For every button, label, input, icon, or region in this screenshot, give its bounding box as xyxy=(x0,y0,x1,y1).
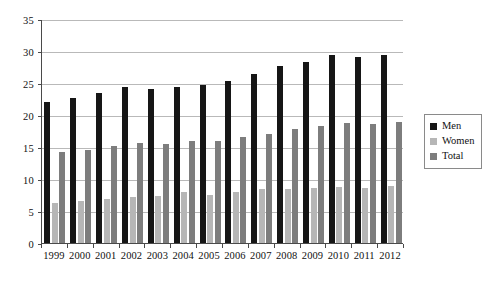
bar-group-2012 xyxy=(381,20,402,243)
y-axis-tick-label: 10 xyxy=(0,175,34,186)
bar-men-2003 xyxy=(148,89,154,243)
bar-men-2011 xyxy=(355,57,361,243)
bar-women-2008 xyxy=(285,189,291,243)
y-axis-tick-label: 30 xyxy=(0,47,34,58)
bar-women-2011 xyxy=(362,188,368,243)
bar-total-2004 xyxy=(189,141,195,243)
y-axis-tick-label: 25 xyxy=(0,79,34,90)
bar-men-2010 xyxy=(329,55,335,243)
bar-group-2010 xyxy=(329,20,350,243)
bar-total-2001 xyxy=(111,146,117,243)
x-tick-mark xyxy=(67,244,68,248)
bar-group-2001 xyxy=(96,20,117,243)
bar-total-2007 xyxy=(266,134,272,243)
x-tick-mark xyxy=(325,244,326,248)
bar-group-2000 xyxy=(70,20,91,243)
bar-men-2007 xyxy=(251,74,257,243)
x-tick-mark xyxy=(93,244,94,248)
x-tick-mark xyxy=(351,244,352,248)
bar-group-2009 xyxy=(303,20,324,243)
legend-label: Men xyxy=(442,121,461,132)
x-tick-mark xyxy=(196,244,197,248)
bar-total-2002 xyxy=(137,143,143,243)
y-axis-tick-label: 35 xyxy=(0,15,34,26)
x-tick-mark xyxy=(248,244,249,248)
bar-men-2002 xyxy=(122,87,128,243)
bar-chart: 05101520253035 1999200020012002200320042… xyxy=(0,0,502,288)
bar-women-2007 xyxy=(259,189,265,243)
legend-label: Total xyxy=(442,151,463,162)
bar-total-1999 xyxy=(59,152,65,243)
legend-swatch-icon xyxy=(430,123,437,130)
bar-group-2002 xyxy=(122,20,143,243)
y-axis-tick-label: 5 xyxy=(0,207,34,218)
bars-layer xyxy=(42,20,403,243)
bar-women-2000 xyxy=(78,201,84,243)
x-tick-mark xyxy=(119,244,120,248)
x-tick-mark xyxy=(274,244,275,248)
x-tick-mark xyxy=(144,244,145,248)
y-axis-tick-label: 20 xyxy=(0,111,34,122)
x-axis-tick-label-2012: 2012 xyxy=(370,250,410,261)
legend-item-men[interactable]: Men xyxy=(430,119,474,134)
bar-women-2005 xyxy=(207,195,213,243)
x-axis-ticks xyxy=(41,244,403,249)
bar-men-2012 xyxy=(381,55,387,243)
bar-group-2006 xyxy=(225,20,246,243)
bar-women-2012 xyxy=(388,186,394,243)
bar-total-2012 xyxy=(396,122,402,243)
bar-group-2004 xyxy=(174,20,195,243)
bar-group-2011 xyxy=(355,20,376,243)
bar-men-2000 xyxy=(70,98,76,243)
bar-group-2005 xyxy=(200,20,221,243)
bar-men-2009 xyxy=(303,62,309,243)
bar-women-2009 xyxy=(311,188,317,243)
bar-group-2007 xyxy=(251,20,272,243)
bar-total-2010 xyxy=(344,123,350,243)
bar-women-2006 xyxy=(233,192,239,243)
x-axis-labels: 1999200020012002200320042005200620072008… xyxy=(41,250,403,266)
chart-legend: MenWomenTotal xyxy=(424,114,482,169)
x-tick-mark xyxy=(41,244,42,248)
bar-men-2006 xyxy=(225,81,231,243)
bar-women-1999 xyxy=(52,203,58,243)
bar-total-2000 xyxy=(85,150,91,243)
x-tick-mark xyxy=(300,244,301,248)
x-tick-mark xyxy=(377,244,378,248)
bar-total-2003 xyxy=(163,144,169,243)
bar-group-2003 xyxy=(148,20,169,243)
bar-men-1999 xyxy=(44,102,50,243)
legend-item-total[interactable]: Total xyxy=(430,149,474,164)
legend-swatch-icon xyxy=(430,153,437,160)
bar-men-2008 xyxy=(277,66,283,243)
y-axis-tick-label: 15 xyxy=(0,143,34,154)
bar-women-2001 xyxy=(104,199,110,243)
bar-total-2011 xyxy=(370,124,376,243)
bar-women-2002 xyxy=(130,197,136,243)
legend-item-women[interactable]: Women xyxy=(430,134,474,149)
bar-total-2005 xyxy=(215,141,221,243)
y-axis-tick-label: 0 xyxy=(0,239,34,250)
bar-total-2006 xyxy=(240,137,246,243)
bar-group-2008 xyxy=(277,20,298,243)
legend-swatch-icon xyxy=(430,138,437,145)
x-tick-mark xyxy=(403,244,404,248)
bar-total-2009 xyxy=(318,126,324,243)
bar-group-1999 xyxy=(44,20,65,243)
legend-label: Women xyxy=(442,136,474,147)
bar-men-2001 xyxy=(96,93,102,243)
bar-women-2010 xyxy=(336,187,342,243)
x-tick-mark xyxy=(170,244,171,248)
bar-women-2004 xyxy=(181,192,187,243)
bar-men-2005 xyxy=(200,85,206,243)
bar-total-2008 xyxy=(292,129,298,243)
bar-women-2003 xyxy=(155,196,161,243)
bar-men-2004 xyxy=(174,87,180,243)
plot-area xyxy=(41,20,403,244)
x-tick-mark xyxy=(222,244,223,248)
